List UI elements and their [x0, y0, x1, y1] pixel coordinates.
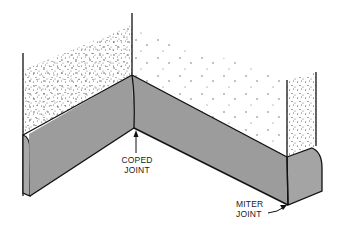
miter-return: [287, 148, 322, 205]
miter-joint-label-line2: JOINT: [236, 209, 270, 219]
pillar: [287, 72, 316, 157]
coped-joint-label-line2: JOINT: [119, 165, 155, 175]
miter-joint-label: MITER JOINT: [236, 199, 270, 219]
coped-joint-label-line1: COPED: [119, 155, 155, 165]
baseboard-diagram: [0, 0, 344, 233]
miter-joint-label-line1: MITER: [236, 199, 270, 209]
coped-joint-label: COPED JOINT: [119, 155, 155, 175]
coped-joint-arrow: [134, 130, 139, 153]
miter-joint-arrow: [268, 205, 287, 213]
